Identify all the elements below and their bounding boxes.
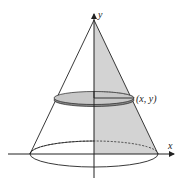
y-axis-label: y — [97, 9, 103, 20]
cone-figure: y x (x, y) — [0, 0, 187, 191]
cone-diagram: y x (x, y) — [0, 0, 187, 191]
cone-left-edge — [30, 20, 94, 154]
point-label: (x, y) — [136, 93, 157, 105]
x-axis-label: x — [167, 140, 173, 151]
